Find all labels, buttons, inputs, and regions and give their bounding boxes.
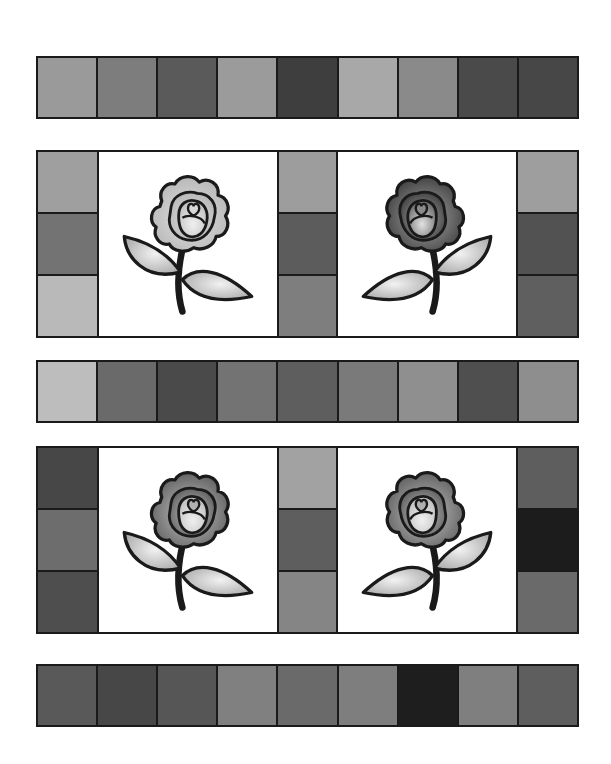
column-square [279, 152, 336, 214]
column-square [279, 572, 336, 632]
medium-rose-icon [113, 455, 263, 625]
strip-square [218, 58, 278, 117]
medium-rose-icon [352, 455, 502, 625]
strip-square [339, 362, 399, 421]
column-square [518, 214, 577, 276]
left-column [38, 152, 99, 336]
strip-square [519, 58, 577, 117]
column-square [518, 276, 577, 336]
strip-square [98, 666, 158, 725]
light-rose-icon [113, 159, 263, 329]
strip-square [158, 666, 218, 725]
dark-rose-icon [352, 159, 502, 329]
column-square [38, 152, 97, 214]
strip-square [278, 666, 338, 725]
strip-square [38, 666, 98, 725]
strip-square [399, 58, 459, 117]
rose-panel-light [99, 152, 277, 336]
strip-square [459, 666, 519, 725]
upper-block-row [36, 150, 579, 338]
strip-square [218, 666, 278, 725]
column-square [279, 510, 336, 572]
column-square [279, 276, 336, 336]
column-square [38, 276, 97, 336]
column-square [38, 214, 97, 276]
middle-column [277, 448, 338, 632]
left-column [38, 448, 99, 632]
column-square [38, 448, 97, 510]
column-square [518, 510, 577, 572]
bottom-strip [36, 664, 579, 727]
strip-square [459, 362, 519, 421]
column-square [518, 152, 577, 214]
strip-square [339, 666, 399, 725]
top-strip [36, 56, 579, 119]
strip-square [519, 666, 577, 725]
strip-square [278, 362, 338, 421]
strip-square [158, 362, 218, 421]
strip-square [399, 362, 459, 421]
strip-square [519, 362, 577, 421]
rose-panel-dark [338, 152, 516, 336]
right-column [516, 152, 577, 336]
middle-column [277, 152, 338, 336]
strip-square [98, 362, 158, 421]
column-square [279, 214, 336, 276]
middle-strip [36, 360, 579, 423]
strip-square [339, 58, 399, 117]
right-column [516, 448, 577, 632]
column-square [518, 572, 577, 632]
strip-square [158, 58, 218, 117]
column-square [279, 448, 336, 510]
column-square [518, 448, 577, 510]
strip-square [98, 58, 158, 117]
rose-panel-medium-left [99, 448, 277, 632]
strip-square [38, 362, 98, 421]
strip-square [399, 666, 459, 725]
column-square [38, 510, 97, 572]
strip-square [459, 58, 519, 117]
column-square [38, 572, 97, 632]
strip-square [278, 58, 338, 117]
rose-panel-medium-right [338, 448, 516, 632]
strip-square [38, 58, 98, 117]
lower-block-row [36, 446, 579, 634]
strip-square [218, 362, 278, 421]
